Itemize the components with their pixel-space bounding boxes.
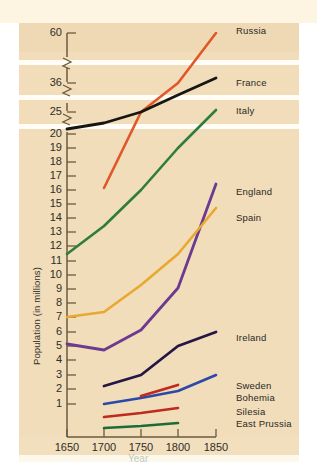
y-tick-label: 12 bbox=[34, 239, 62, 251]
y-tick-label: 20 bbox=[34, 127, 62, 139]
y-tick-label: 14 bbox=[34, 211, 62, 223]
y-tick-label: 36 bbox=[34, 76, 62, 88]
series-label-sweden: Sweden bbox=[236, 380, 272, 391]
series-label-england: England bbox=[236, 186, 272, 197]
y-tick-label: 13 bbox=[34, 225, 62, 237]
series-label-bohemia: Bohemia bbox=[236, 392, 275, 403]
series-label-ireland: Ireland bbox=[236, 332, 266, 343]
y-tick-label: 18 bbox=[34, 155, 62, 167]
x-axis-title: Year bbox=[128, 453, 148, 464]
y-tick-label: 2 bbox=[34, 382, 62, 394]
y-tick-label: 1 bbox=[34, 397, 62, 409]
series-line-italy bbox=[67, 110, 216, 254]
axis-break-marks bbox=[63, 58, 71, 125]
y-tick-label: 3 bbox=[34, 368, 62, 380]
y-tick-label: 17 bbox=[34, 169, 62, 181]
x-tick-label: 1850 bbox=[194, 441, 238, 453]
series-label-silesia: Silesia bbox=[236, 406, 265, 417]
series-label-italy: Italy bbox=[236, 105, 254, 116]
series-label-spain: Spain bbox=[236, 212, 261, 223]
series-label-russia: Russia bbox=[236, 25, 266, 36]
series-label-east-prussia: East Prussia bbox=[236, 418, 292, 429]
y-tick-label: 60 bbox=[34, 26, 62, 38]
series-label-france: France bbox=[236, 77, 267, 88]
figure-root: 60 36 25 20 19 18 17 16 15 14 13 12 11 1… bbox=[0, 0, 317, 476]
series-line-silesia bbox=[104, 408, 178, 417]
y-tick-label: 25 bbox=[34, 105, 62, 117]
series-line-east-prussia bbox=[104, 423, 178, 428]
y-tick-label: 15 bbox=[34, 197, 62, 209]
series-line-spain bbox=[67, 208, 216, 317]
series-line-russia bbox=[104, 33, 216, 188]
series-line-france bbox=[67, 78, 216, 129]
series-line-england bbox=[67, 184, 216, 350]
y-tick-label: 19 bbox=[34, 141, 62, 153]
y-axis-title: Population (in millions) bbox=[31, 267, 42, 365]
y-tick-label: 16 bbox=[34, 183, 62, 195]
x-axis-ticks bbox=[67, 429, 216, 437]
y-tick-label: 11 bbox=[34, 254, 62, 266]
